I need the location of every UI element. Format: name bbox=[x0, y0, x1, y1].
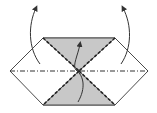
origami-fold-diagram bbox=[0, 0, 157, 113]
